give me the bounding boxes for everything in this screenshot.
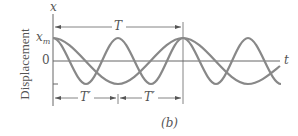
plot-area <box>0 0 298 136</box>
t-axis-var: t <box>284 53 289 67</box>
figure-caption: (b) <box>161 116 178 130</box>
displacement-figure: Displacement x xm 0 t T T′ T′ (b) <box>0 0 298 136</box>
tick-zero: 0 <box>42 53 50 67</box>
y-axis-label: Displacement <box>17 19 33 109</box>
period-T-label: T <box>114 19 122 33</box>
arrowhead-left <box>55 25 61 29</box>
period-Tprime-label-1: T′ <box>80 90 91 104</box>
period-Tprime-label-2: T′ <box>144 90 155 104</box>
y-axis-var: x <box>50 0 57 14</box>
arrowhead-right <box>175 25 181 29</box>
tick-xm: xm <box>36 30 50 46</box>
